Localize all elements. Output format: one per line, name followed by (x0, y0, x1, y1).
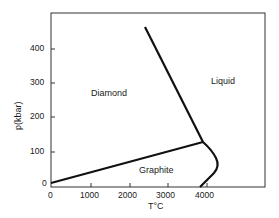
y-tick-300: 300 (30, 77, 44, 87)
x-axis-label: T°C (148, 201, 164, 211)
y-axis-label: p(kbar) (13, 101, 23, 130)
graphite-liquid-line (200, 142, 218, 187)
x-tick-4000: 4000 (195, 190, 214, 200)
y-tick-0: 0 (42, 178, 47, 188)
x-ticks (91, 183, 207, 187)
y-ticks (51, 49, 55, 152)
x-tick-2000: 2000 (118, 190, 137, 200)
x-tick-1000: 1000 (80, 190, 99, 200)
region-liquid: Liquid (211, 76, 235, 86)
plot-frame (51, 13, 265, 187)
x-tick-3000: 3000 (156, 190, 175, 200)
diamond-liquid-line (145, 27, 203, 142)
x-tick-0: 0 (48, 190, 53, 200)
graphite-diamond-line (51, 142, 203, 183)
y-tick-100: 100 (30, 146, 44, 156)
region-diamond: Diamond (91, 88, 127, 98)
y-tick-200: 200 (30, 111, 44, 121)
y-tick-400: 400 (30, 43, 44, 53)
region-graphite: Graphite (139, 165, 174, 175)
